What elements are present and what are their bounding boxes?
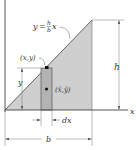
point-marker [45, 66, 49, 69]
equation-x: x [52, 22, 57, 31]
equation-numerator: h [47, 19, 51, 26]
strip-height-label: y [17, 78, 23, 87]
centroid-dot [45, 88, 48, 91]
point-label: (x,y) [20, 54, 36, 62]
arrow-left-icon [5, 138, 9, 140]
centroid-diagram: y = h b x (x,y) (x̄,ȳ) y h dx b x y [0, 0, 136, 150]
x-axis-label: x [130, 107, 135, 116]
equation-denominator: b [47, 26, 51, 33]
height-label: h [114, 62, 120, 72]
arrow-right-icon [88, 138, 92, 140]
base-label: b [46, 135, 51, 144]
equation-equals: = [39, 22, 46, 31]
dx-label: dx [62, 116, 72, 125]
arrow-up-icon [21, 68, 23, 72]
arrow-up-icon [118, 20, 120, 24]
arrow-right-icon [37, 119, 41, 121]
equation-leader [60, 27, 70, 39]
equation-y: y [32, 22, 38, 31]
centroid-label: (x̄,ȳ) [55, 86, 71, 94]
arrow-left-icon [52, 119, 56, 121]
arrow-down-icon [118, 106, 120, 110]
point-leader [39, 58, 45, 65]
